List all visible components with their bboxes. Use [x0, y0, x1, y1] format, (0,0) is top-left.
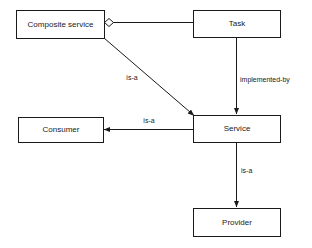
node-label-task: Task	[229, 19, 246, 28]
node-task[interactable]: Task	[194, 11, 281, 38]
edge-label-implemented-by: implemented-by	[240, 76, 290, 84]
node-consumer[interactable]: Consumer	[19, 118, 104, 143]
node-label-service: Service	[224, 124, 251, 133]
edge-composite-service-is-a-service[interactable]: is-a	[104, 38, 194, 116]
node-label-composite-service: Composite service	[28, 20, 94, 29]
edge-service-is-a-consumer[interactable]: is-a	[104, 117, 193, 130]
edge-line-is-a-diagonal	[104, 38, 194, 116]
node-composite-service[interactable]: Composite service	[17, 11, 105, 39]
edge-label-is-a-diagonal: is-a	[126, 74, 137, 81]
diagram-canvas: is-a implemented-by is-a is-a Composite …	[0, 0, 312, 248]
edge-label-is-a-consumer: is-a	[143, 117, 154, 124]
aggregation-diamond-icon	[105, 19, 114, 27]
diagram-svg: is-a implemented-by is-a is-a Composite …	[0, 0, 312, 248]
node-label-provider: Provider	[222, 218, 252, 227]
edge-service-is-a-provider[interactable]: is-a	[237, 142, 253, 207]
node-service[interactable]: Service	[194, 116, 281, 143]
edge-label-is-a-provider: is-a	[241, 167, 252, 174]
node-provider[interactable]: Provider	[194, 209, 281, 237]
edge-task-implemented-by-service[interactable]: implemented-by	[237, 37, 291, 114]
node-label-consumer: Consumer	[43, 125, 80, 134]
edge-task-aggregated-by-composite-service[interactable]	[105, 19, 194, 27]
